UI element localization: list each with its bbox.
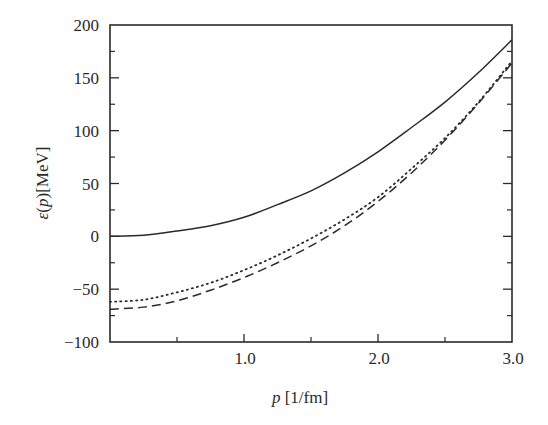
- y-tick-label: 50: [82, 175, 99, 194]
- y-tick-labels: 200150100500−50−100: [64, 16, 99, 352]
- x-tick-label: 3.0: [502, 349, 523, 368]
- x-tick-label: 2.0: [368, 349, 389, 368]
- y-tick-label: 200: [74, 16, 100, 35]
- axis-ticks: [110, 51, 512, 342]
- curve-solid: [110, 40, 512, 237]
- y-tick-label: 150: [74, 69, 100, 88]
- x-tick-label: 1.0: [234, 349, 255, 368]
- y-tick-label: 0: [91, 227, 100, 246]
- x-axis-label: p [1/fm]: [271, 388, 328, 407]
- y-tick-label: −100: [64, 333, 99, 352]
- curves: [110, 40, 512, 309]
- plot-frame: [110, 25, 512, 342]
- chart: 1.02.03.0 200150100500−50−100 p [1/fm] ε…: [0, 0, 548, 425]
- x-tick-labels: 1.02.03.0: [234, 349, 523, 368]
- curve-dashed: [110, 63, 512, 309]
- y-tick-label: 100: [74, 122, 100, 141]
- y-axis-label: ε(p)[MeV]: [33, 147, 52, 220]
- y-tick-label: −50: [72, 280, 99, 299]
